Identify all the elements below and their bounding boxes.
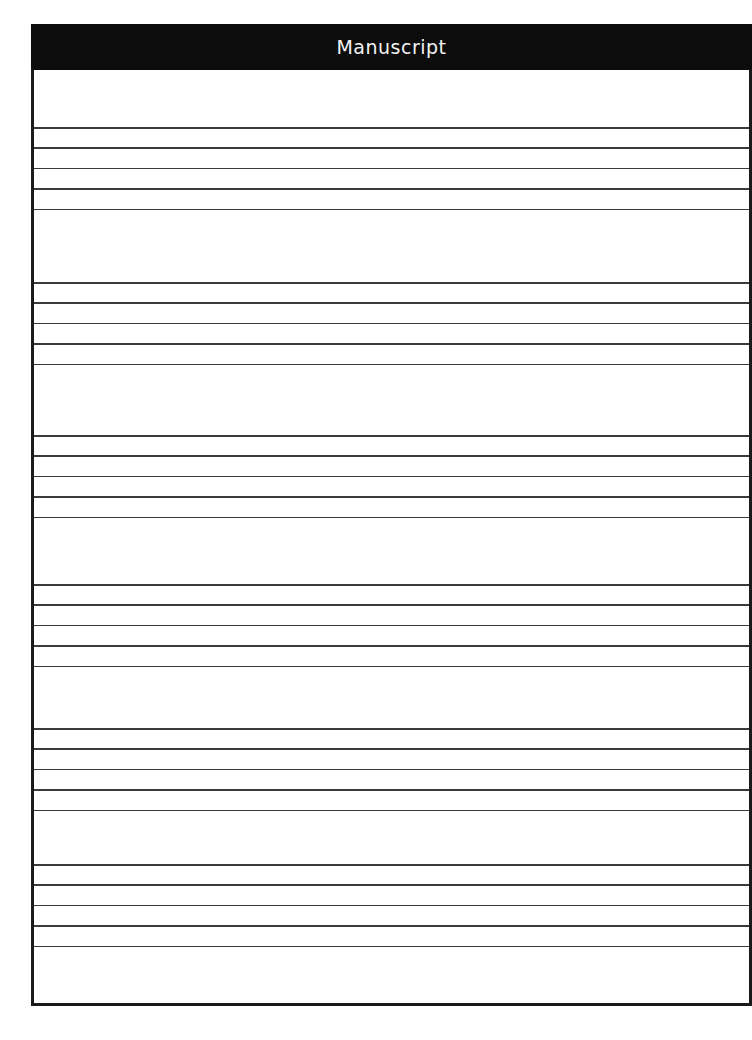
staff-line bbox=[34, 188, 749, 190]
staff-line bbox=[34, 147, 749, 149]
staff-line bbox=[34, 323, 749, 325]
staff-line bbox=[34, 769, 749, 771]
staff-line bbox=[34, 645, 749, 647]
staff-line bbox=[34, 728, 749, 730]
staff-line bbox=[34, 905, 749, 907]
staff-line bbox=[34, 864, 749, 866]
staff-line bbox=[34, 748, 749, 750]
header-bar: Manuscript bbox=[31, 24, 752, 70]
staff-line bbox=[34, 604, 749, 606]
staff-line bbox=[34, 884, 749, 886]
staff-line bbox=[34, 517, 749, 519]
staff-line bbox=[34, 496, 749, 498]
staff-line bbox=[34, 343, 749, 345]
staff-line bbox=[34, 476, 749, 478]
staff-line bbox=[34, 946, 749, 948]
staff-line bbox=[34, 625, 749, 627]
staff-line bbox=[34, 364, 749, 366]
staff-line bbox=[34, 810, 749, 812]
staff-line bbox=[34, 925, 749, 927]
staff-line bbox=[34, 282, 749, 284]
staff-line bbox=[34, 209, 749, 211]
staff-line bbox=[34, 666, 749, 668]
staff-line bbox=[34, 455, 749, 457]
staff-line bbox=[34, 127, 749, 129]
staff-line bbox=[34, 584, 749, 586]
staff-line bbox=[34, 302, 749, 304]
manuscript-sheet bbox=[31, 24, 752, 1006]
staff-line bbox=[34, 435, 749, 437]
staff-line bbox=[34, 789, 749, 791]
staff-line bbox=[34, 168, 749, 170]
page-title: Manuscript bbox=[336, 36, 446, 58]
